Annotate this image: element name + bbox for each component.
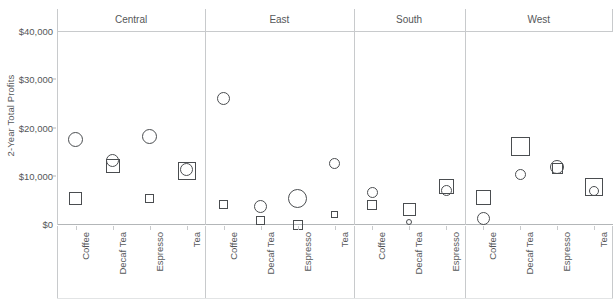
data-marker-square[interactable] <box>256 216 265 225</box>
data-marker-circle[interactable] <box>477 212 490 225</box>
x-axis-tick-label: Espresso <box>302 232 313 272</box>
x-axis-panel-central: CoffeeDecaf TeaEspressoTea <box>57 226 205 302</box>
data-marker-circle[interactable] <box>106 154 119 167</box>
x-axis-tick-label: Espresso <box>450 232 461 272</box>
x-axis-tick-mark <box>483 226 484 230</box>
x-axis-tick-label: Tea <box>191 232 202 247</box>
panel-header-west: West <box>465 9 613 30</box>
x-axis-tick-mark <box>187 226 188 230</box>
x-axis-category[interactable]: Coffee <box>465 226 502 302</box>
x-axis-category[interactable]: Espresso <box>279 226 316 302</box>
data-marker-circle[interactable] <box>288 189 307 208</box>
x-axis-tick-mark <box>520 226 521 230</box>
data-marker-square[interactable] <box>511 137 530 156</box>
x-axis-tick-mark <box>224 226 225 230</box>
x-axis: CoffeeDecaf TeaEspressoTeaCoffeeDecaf Te… <box>57 226 613 302</box>
y-axis-tick-label: $0 <box>7 219 53 230</box>
x-axis-category[interactable]: Coffee <box>205 226 242 302</box>
y-axis-tick-mark <box>52 79 56 80</box>
x-axis-tick-mark <box>557 226 558 230</box>
data-marker-circle[interactable] <box>406 219 412 225</box>
x-axis-category[interactable]: Coffee <box>354 226 391 302</box>
x-axis-bottom-line <box>57 298 613 299</box>
panel-divider <box>57 30 58 225</box>
panel-header-row: CentralEastSouthWest <box>57 9 613 30</box>
data-marker-circle[interactable] <box>515 169 526 180</box>
panel-divider <box>465 30 466 225</box>
x-axis-tick-label: Coffee <box>80 232 91 260</box>
y-axis-tick-mark <box>52 175 56 176</box>
data-marker-square[interactable] <box>476 190 491 205</box>
x-axis-panel-south: CoffeeDecaf TeaEspresso <box>354 226 465 302</box>
y-axis-tick-mark <box>52 127 56 128</box>
data-marker-square[interactable] <box>331 211 338 218</box>
x-axis-tick-mark <box>335 226 336 230</box>
y-axis-tick-label: $20,000 <box>7 122 53 133</box>
x-axis-tick-label: Decaf Tea <box>265 232 276 275</box>
data-marker-square[interactable] <box>69 192 82 205</box>
x-axis-tick-mark <box>261 226 262 230</box>
data-marker-circle[interactable] <box>329 158 340 169</box>
data-marker-square[interactable] <box>403 203 416 216</box>
panel-central <box>57 30 205 225</box>
panel-west <box>465 30 613 225</box>
x-axis-tick-mark <box>298 226 299 230</box>
data-marker-square[interactable] <box>145 194 154 203</box>
data-marker-circle[interactable] <box>550 160 564 174</box>
x-axis-category[interactable]: Decaf Tea <box>502 226 539 302</box>
x-axis-tick-label: Espresso <box>154 232 165 272</box>
y-axis-tick-label: $10,000 <box>7 170 53 181</box>
panel-header-label: East <box>269 14 289 25</box>
scatter-chart: 2-Year Total Profits $0$10,000$20,000$30… <box>0 0 613 302</box>
x-axis-category[interactable]: Tea <box>576 226 613 302</box>
y-axis-tick-label: $30,000 <box>7 74 53 85</box>
data-marker-square[interactable] <box>219 200 228 209</box>
panel-header-central: Central <box>57 9 205 30</box>
x-axis-panel-east: CoffeeDecaf TeaEspressoTea <box>205 226 353 302</box>
x-axis-category[interactable]: Espresso <box>428 226 465 302</box>
x-axis-tick-mark <box>150 226 151 230</box>
x-axis-tick-label: Tea <box>339 232 350 247</box>
x-axis-tick-label: Coffee <box>487 232 498 260</box>
panel-divider <box>205 30 206 225</box>
plot-panels <box>57 30 613 225</box>
y-axis: $0$10,000$20,000$30,000$40,000 <box>0 0 53 302</box>
x-axis-category[interactable]: Decaf Tea <box>94 226 131 302</box>
x-axis-tick-label: Coffee <box>376 232 387 260</box>
x-axis-tick-mark <box>372 226 373 230</box>
x-axis-category[interactable]: Tea <box>316 226 353 302</box>
data-marker-square[interactable] <box>367 200 377 210</box>
x-axis-category[interactable]: Espresso <box>131 226 168 302</box>
x-axis-tick-mark <box>113 226 114 230</box>
x-axis-tick-label: Coffee <box>228 232 239 260</box>
data-marker-circle[interactable] <box>441 185 452 196</box>
x-axis-tick-label: Espresso <box>561 232 572 272</box>
panel-header-divider <box>465 9 466 32</box>
x-axis-tick-label: Decaf Tea <box>117 232 128 275</box>
x-axis-category[interactable]: Tea <box>168 226 205 302</box>
x-axis-tick-label: Tea <box>598 232 609 247</box>
panel-header-divider <box>205 9 206 32</box>
data-marker-circle[interactable] <box>68 132 83 147</box>
panel-south <box>354 30 465 225</box>
x-axis-tick-mark <box>76 226 77 230</box>
data-marker-circle[interactable] <box>367 187 378 198</box>
data-marker-circle[interactable] <box>142 129 157 144</box>
panel-header-south: South <box>354 9 465 30</box>
data-marker-circle[interactable] <box>254 200 267 213</box>
x-axis-category[interactable]: Decaf Tea <box>391 226 428 302</box>
x-axis-tick-mark <box>409 226 410 230</box>
x-axis-category[interactable]: Coffee <box>57 226 94 302</box>
x-axis-category[interactable]: Decaf Tea <box>242 226 279 302</box>
panel-header-label: South <box>396 14 422 25</box>
panel-header-divider <box>57 9 58 32</box>
x-axis-tick-label: Decaf Tea <box>524 232 535 275</box>
data-marker-circle[interactable] <box>217 92 230 105</box>
x-axis-category[interactable]: Espresso <box>539 226 576 302</box>
panel-header-east: East <box>205 9 353 30</box>
panel-divider <box>354 30 355 225</box>
panel-header-label: West <box>528 14 551 25</box>
panel-header-divider <box>354 9 355 32</box>
y-axis-tick-label: $40,000 <box>7 26 53 37</box>
x-axis-tick-mark <box>594 226 595 230</box>
